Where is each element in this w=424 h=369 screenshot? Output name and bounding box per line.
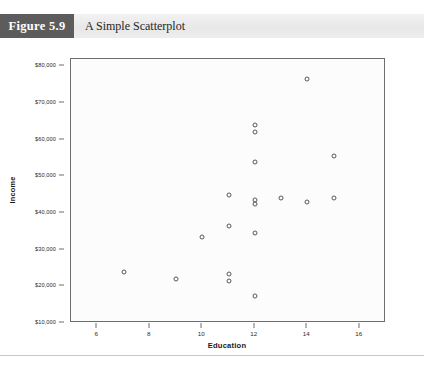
y-axis-tick-mark	[59, 285, 64, 286]
y-axis-tick-mark	[59, 102, 64, 103]
figure-number-badge: Figure 5.9	[0, 14, 74, 38]
data-point	[226, 192, 231, 197]
figure-title: A Simple Scatterplot	[74, 14, 185, 38]
scatterplot-chart: Income $10,000$20,000$30,000$40,000$50,0…	[0, 40, 424, 352]
x-axis-tick-mark	[253, 323, 254, 328]
data-point	[252, 130, 257, 135]
data-point	[252, 123, 257, 128]
data-point	[226, 271, 231, 276]
x-axis-tick-mark	[201, 323, 202, 328]
data-point	[305, 77, 310, 82]
y-axis-tick-mark	[59, 322, 64, 323]
data-point	[226, 223, 231, 228]
x-axis-tick-label: 12	[250, 330, 257, 337]
figure-bottom-rule	[0, 355, 424, 356]
data-point	[252, 201, 257, 206]
plot-area	[70, 58, 385, 322]
x-axis-title: Education	[208, 341, 247, 350]
x-axis-tick-mark	[306, 323, 307, 328]
x-axis-tick-label: 10	[198, 330, 205, 337]
y-axis-tick-label: $50,000	[35, 172, 56, 178]
data-point	[331, 196, 336, 201]
y-axis-tick-mark	[59, 65, 64, 66]
figure-header: Figure 5.9 A Simple Scatterplot	[0, 14, 424, 38]
x-axis-tick-label: 8	[147, 330, 150, 337]
data-point	[174, 277, 179, 282]
data-point	[279, 196, 284, 201]
y-axis: Income $10,000$20,000$30,000$40,000$50,0…	[0, 40, 70, 340]
y-axis-tick-mark	[59, 248, 64, 249]
data-point	[252, 231, 257, 236]
x-axis-tick-mark	[96, 323, 97, 328]
data-point	[226, 278, 231, 283]
data-point	[252, 293, 257, 298]
y-axis-tick-label: $20,000	[35, 282, 56, 288]
x-axis-tick-label: 14	[303, 330, 310, 337]
y-axis-tick-label: $40,000	[35, 209, 56, 215]
data-point	[121, 269, 126, 274]
y-axis-tick-label: $80,000	[35, 62, 56, 68]
x-axis-tick-mark	[358, 323, 359, 328]
data-point	[252, 159, 257, 164]
data-point	[331, 154, 336, 159]
data-point	[305, 200, 310, 205]
data-point	[200, 234, 205, 239]
y-axis-tick-label: $60,000	[35, 136, 56, 142]
y-axis-tick-label: $30,000	[35, 246, 56, 252]
y-axis-tick-mark	[59, 138, 64, 139]
y-axis-tick-label: $10,000	[35, 319, 56, 325]
y-axis-tick-mark	[59, 175, 64, 176]
x-axis-tick-label: 16	[355, 330, 362, 337]
y-axis-title: Income	[8, 176, 17, 203]
x-axis-tick-label: 6	[95, 330, 98, 337]
x-axis-tick-mark	[148, 323, 149, 328]
y-axis-tick-label: $70,000	[35, 99, 56, 105]
y-axis-tick-mark	[59, 212, 64, 213]
